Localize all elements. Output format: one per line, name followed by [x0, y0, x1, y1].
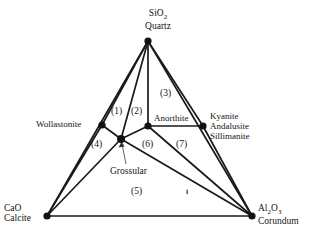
vertex-label-calcite: CaO Calcite — [4, 203, 48, 224]
node-anorthite — [144, 122, 151, 129]
node-corundum — [248, 212, 255, 219]
vertex-label-quartz: SiO2 Quartz — [0, 8, 316, 32]
node-kyanite-group — [199, 122, 206, 129]
vertex-label-corundum: Al2O3 Corundum — [258, 203, 299, 227]
sillimanite-line: Sillimanite — [210, 131, 250, 141]
node-label-anorthite: Anorthite — [154, 114, 189, 124]
quartz-mineral: Quartz — [0, 21, 316, 31]
field-label-7: (7) — [176, 139, 187, 149]
grossular-leader-line — [122, 144, 126, 164]
kyanite-line: Kyanite — [210, 111, 250, 121]
quartz-formula: SiO2 — [0, 8, 316, 21]
cao-formula: CaO — [4, 203, 48, 213]
field-label-5: (5) — [131, 186, 142, 196]
field-label-4: (4) — [91, 139, 102, 149]
field-label-3: (3) — [160, 88, 171, 98]
node-grossular — [117, 135, 125, 143]
tieline-grossular-corundum — [121, 139, 252, 216]
node-wollastonite — [98, 121, 105, 128]
scan-artifact-mark — [186, 190, 188, 195]
tieline-quartz-grossular — [121, 41, 148, 139]
andalusite-line: Andalusite — [210, 121, 250, 131]
node-label-grossular: Grossular — [110, 166, 147, 176]
corundum-mineral: Corundum — [258, 216, 299, 226]
node-label-kyanite-group: Kyanite Andalusite Sillimanite — [210, 111, 250, 141]
field-label-1: (1) — [111, 106, 122, 116]
node-label-wollastonite: Wollastonite — [36, 120, 81, 130]
tieline-grossular-anorthite — [121, 126, 148, 139]
field-label-2: (2) — [131, 106, 142, 116]
ternary-phase-diagram: SiO2 Quartz CaO Calcite Al2O3 Corundum W… — [0, 0, 316, 241]
calcite-mineral: Calcite — [4, 213, 48, 223]
field-label-6: (6) — [142, 139, 153, 149]
al2o3-formula: Al2O3 — [258, 203, 299, 216]
node-quartz — [144, 37, 151, 44]
